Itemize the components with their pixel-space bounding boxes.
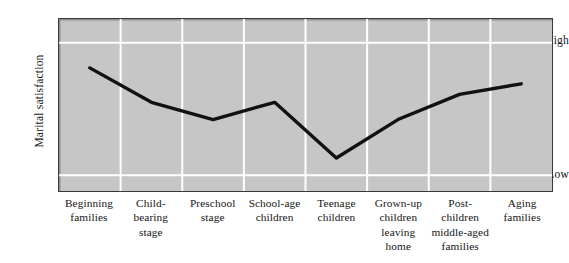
marital-satisfaction-line-chart: Marital satisfaction High Low Beginningf… [0,0,569,263]
y-axis-title: Marital satisfaction [33,16,45,186]
x-tick-label: Agingfamilies [479,196,565,225]
x-tick-label-line: Aging [479,196,565,210]
x-tick-label-line: families [479,210,565,224]
x-tick-label-line: middle-aged [417,225,503,239]
x-tick-label-line: stage [108,225,194,239]
plot-area [58,18,553,192]
plot-svg [59,19,552,191]
x-axis-labels: BeginningfamiliesChild-bearingstagePresc… [58,196,553,262]
x-tick-label-line: families [417,239,503,253]
